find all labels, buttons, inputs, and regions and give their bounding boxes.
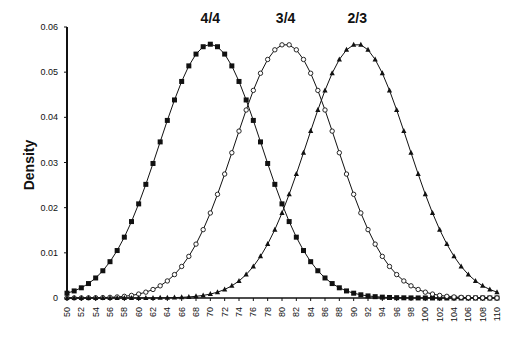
peak-label: 2/3 (348, 10, 368, 26)
x-tick-label: 58 (119, 307, 129, 317)
x-tick-label: 56 (105, 307, 115, 317)
x-axis: 5052545658606264666870727476788082848688… (62, 298, 502, 322)
x-tick-label: 54 (91, 307, 101, 317)
x-tick-label: 92 (363, 307, 373, 317)
x-tick-label: 50 (62, 307, 72, 317)
series-group (64, 42, 499, 301)
x-tick-label: 68 (191, 307, 201, 317)
y-tick-label: 0.05 (40, 67, 58, 77)
y-tick-label: 0 (53, 293, 58, 303)
x-tick-label: 78 (263, 307, 273, 317)
x-tick-label: 98 (406, 307, 416, 317)
y-tick-label: 0.04 (40, 112, 58, 122)
x-tick-label: 104 (449, 307, 459, 322)
x-tick-label: 52 (76, 307, 86, 317)
x-tick-label: 80 (277, 307, 287, 317)
series-4-4 (65, 42, 500, 301)
y-tick-label: 0.02 (40, 203, 58, 213)
series-2-3 (64, 42, 499, 300)
density-chart: 00.010.020.030.040.050.06 50525456586062… (0, 0, 511, 338)
peak-label: 4/4 (201, 10, 221, 26)
peak-labels: 4/43/42/3 (201, 10, 368, 26)
series-3-4 (65, 43, 499, 301)
y-axis-label: Density (21, 140, 37, 191)
y-axis: 00.010.020.030.040.050.06 (40, 22, 67, 303)
x-tick-label: 86 (320, 307, 330, 317)
peak-label: 3/4 (276, 10, 296, 26)
x-tick-label: 74 (234, 307, 244, 317)
x-tick-label: 96 (392, 307, 402, 317)
x-tick-label: 106 (463, 307, 473, 322)
x-tick-label: 108 (478, 307, 488, 322)
y-tick-label: 0.03 (40, 158, 58, 168)
x-tick-label: 66 (177, 307, 187, 317)
x-tick-label: 62 (148, 307, 158, 317)
x-tick-label: 84 (306, 307, 316, 317)
x-tick-label: 76 (248, 307, 258, 317)
x-tick-label: 88 (334, 307, 344, 317)
x-tick-label: 72 (220, 307, 230, 317)
x-tick-label: 82 (291, 307, 301, 317)
y-tick-label: 0.01 (40, 248, 58, 258)
x-tick-label: 100 (420, 307, 430, 322)
x-tick-label: 64 (162, 307, 172, 317)
x-tick-label: 102 (435, 307, 445, 322)
x-tick-label: 94 (377, 307, 387, 317)
x-tick-label: 70 (205, 307, 215, 317)
x-tick-label: 60 (134, 307, 144, 317)
x-tick-label: 110 (492, 307, 502, 321)
y-tick-label: 0.06 (40, 22, 58, 32)
x-tick-label: 90 (349, 307, 359, 317)
